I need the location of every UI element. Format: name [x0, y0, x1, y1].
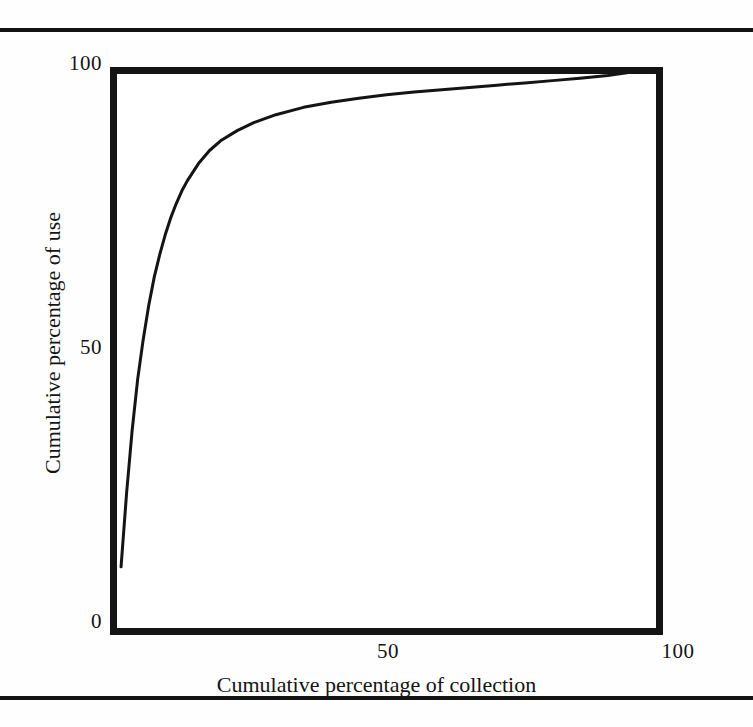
figure-page: 100 50 0 50 100 Cumulative percentage of… — [0, 0, 753, 727]
cumulative-use-curve — [110, 67, 663, 635]
x-tick-label-100: 100 — [648, 640, 708, 662]
y-tick-label-100: 100 — [56, 52, 102, 74]
y-tick-label-0: 0 — [56, 610, 102, 632]
chart-figure: 100 50 0 50 100 Cumulative percentage of… — [0, 32, 753, 696]
curve-line — [121, 67, 663, 567]
x-axis-title: Cumulative percentage of collection — [0, 673, 753, 697]
x-tick-label-50: 50 — [358, 640, 418, 662]
page-rule-bottom — [0, 696, 753, 700]
y-axis-title: Cumulative percentage of use — [41, 133, 65, 553]
